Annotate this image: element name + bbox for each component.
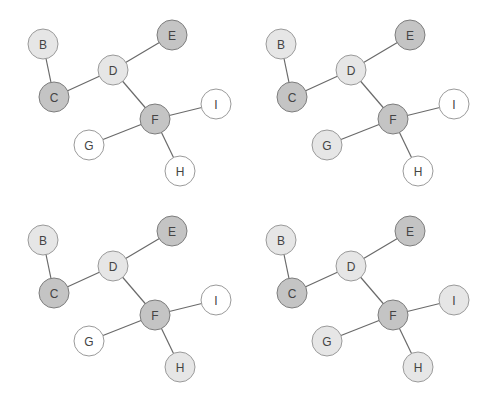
node-h: H [403,352,433,382]
node-d: D [98,251,128,281]
node-g: G [312,130,342,160]
node-label-e: E [406,225,414,239]
node-d: D [336,55,366,85]
node-label-g: G [84,335,93,349]
node-i: I [201,89,231,119]
graph-panel-top-right: BCDEFGHI [266,20,469,186]
node-f: F [140,104,170,134]
node-label-c: C [288,91,297,105]
node-label-h: H [176,165,185,179]
node-label-d: D [109,260,118,274]
node-g: G [312,326,342,356]
node-b: B [266,29,296,59]
node-c: C [39,82,69,112]
node-h: H [165,156,195,186]
graph-panel-bottom-right: BCDEFGHI [266,216,469,382]
node-label-i: I [214,98,217,112]
node-label-f: F [389,113,396,127]
node-label-e: E [168,225,176,239]
node-label-f: F [389,309,396,323]
node-label-i: I [452,294,455,308]
node-label-h: H [176,361,185,375]
node-label-d: D [347,260,356,274]
node-label-i: I [214,294,217,308]
node-label-d: D [347,64,356,78]
node-i: I [201,285,231,315]
node-h: H [403,156,433,186]
node-label-e: E [406,29,414,43]
node-i: I [439,89,469,119]
node-c: C [277,82,307,112]
node-b: B [28,225,58,255]
node-label-f: F [151,113,158,127]
node-label-c: C [288,287,297,301]
node-d: D [98,55,128,85]
node-label-b: B [39,38,47,52]
node-f: F [378,300,408,330]
node-c: C [277,278,307,308]
node-label-g: G [322,335,331,349]
node-d: D [336,251,366,281]
node-e: E [157,20,187,50]
node-b: B [266,225,296,255]
node-label-c: C [50,287,59,301]
graph-panel-top-left: BCDEFGHI [28,20,231,186]
node-label-d: D [109,64,118,78]
node-label-e: E [168,29,176,43]
node-label-b: B [39,234,47,248]
node-g: G [74,130,104,160]
node-f: F [378,104,408,134]
node-label-h: H [414,165,423,179]
node-label-h: H [414,361,423,375]
node-label-g: G [84,139,93,153]
node-label-f: F [151,309,158,323]
node-label-i: I [452,98,455,112]
node-label-g: G [322,139,331,153]
node-e: E [395,20,425,50]
node-c: C [39,278,69,308]
node-i: I [439,285,469,315]
graph-panel-bottom-left: BCDEFGHI [28,216,231,382]
node-label-b: B [277,234,285,248]
node-e: E [157,216,187,246]
node-b: B [28,29,58,59]
node-label-c: C [50,91,59,105]
graph-diagram-grid: BCDEFGHIBCDEFGHIBCDEFGHIBCDEFGHI [0,0,495,403]
node-g: G [74,326,104,356]
node-h: H [165,352,195,382]
node-label-b: B [277,38,285,52]
node-f: F [140,300,170,330]
node-e: E [395,216,425,246]
